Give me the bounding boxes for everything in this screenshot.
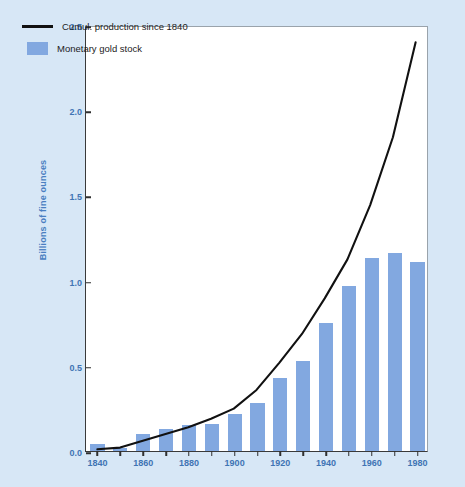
y-tick-1.5: 1.5 [69, 192, 86, 202]
x-tick-label-1920: 1920 [270, 458, 290, 468]
y-tick-2.0: 2.0 [69, 107, 86, 117]
y-tick-label: 2.0 [69, 107, 86, 117]
legend-item-monetary-gold-stock: Monetary gold stock [22, 40, 188, 57]
x-tick-1860 [142, 451, 144, 456]
x-tick-1910 [257, 451, 259, 456]
x-tick-label-1880: 1880 [179, 458, 199, 468]
x-tick-label-1840: 1840 [87, 458, 107, 468]
x-tick-1920 [280, 451, 282, 456]
y-tick-mark [86, 452, 91, 454]
y-tick-label: 0.0 [69, 448, 86, 458]
x-tick-1870 [165, 451, 167, 456]
y-tick-mark [86, 367, 91, 369]
x-tick-1840 [97, 451, 99, 456]
x-tick-1880 [188, 451, 190, 456]
plot-area: 0.00.51.01.52.02.5 184018601880190019201… [85, 26, 428, 452]
legend-label: Monetary gold stock [57, 43, 142, 54]
y-tick-label: 1.5 [69, 192, 86, 202]
line-marker-icon [22, 25, 53, 27]
x-tick-1930 [302, 451, 304, 456]
y-axis-title: Billions of fine ounces [38, 140, 48, 280]
x-tick-1940 [325, 451, 327, 456]
legend-item-cumulative-production: Cumul. production since 1840 [22, 18, 188, 35]
legend: Cumul. production since 1840 Monetary go… [22, 18, 188, 62]
x-tick-1960 [371, 451, 373, 456]
cumulative-production-line [86, 27, 427, 451]
x-tick-1890 [211, 451, 213, 456]
y-tick-mark [86, 197, 91, 199]
x-tick-label-1900: 1900 [225, 458, 245, 468]
y-tick-mark [86, 282, 91, 284]
bar-swatch-icon [27, 42, 48, 55]
y-tick-mark [86, 111, 91, 113]
x-tick-1980 [417, 451, 419, 456]
x-tick-1850 [120, 451, 122, 456]
legend-label: Cumul. production since 1840 [62, 21, 188, 32]
x-tick-label-1940: 1940 [316, 458, 336, 468]
y-tick-0.5: 0.5 [69, 363, 86, 373]
x-tick-1950 [348, 451, 350, 456]
plot-canvas [86, 27, 427, 451]
y-tick-0.0: 0.0 [69, 448, 86, 458]
x-tick-label-1860: 1860 [133, 458, 153, 468]
figure-gold-chart: Billions of fine ounces 0.00.51.01.52.02… [0, 0, 465, 487]
x-tick-label-1960: 1960 [362, 458, 382, 468]
x-tick-1970 [394, 451, 396, 456]
y-tick-1.0: 1.0 [69, 278, 86, 288]
y-tick-label: 0.5 [69, 363, 86, 373]
x-tick-label-1980: 1980 [408, 458, 428, 468]
x-tick-1900 [234, 451, 236, 456]
y-tick-label: 1.0 [69, 278, 86, 288]
